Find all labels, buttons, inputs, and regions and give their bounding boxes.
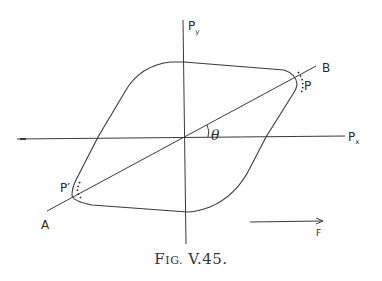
- diagram-canvas: Py B P θ Px P′ A F: [0, 0, 382, 281]
- label-px: Px: [348, 130, 359, 146]
- label-p: P: [304, 79, 311, 93]
- label-b: B: [322, 61, 330, 75]
- figure-caption: FIG. V.45.: [0, 250, 382, 268]
- label-py: Py: [188, 19, 199, 36]
- dotted-arc-p-prime: [77, 182, 82, 199]
- theta-arc: [207, 125, 209, 137]
- force-arrow: [250, 221, 322, 222]
- label-theta: θ: [211, 127, 220, 143]
- label-f: F: [316, 228, 321, 238]
- label-a: A: [41, 218, 50, 232]
- label-p-prime: P′: [60, 181, 70, 195]
- py-axis: [183, 20, 186, 244]
